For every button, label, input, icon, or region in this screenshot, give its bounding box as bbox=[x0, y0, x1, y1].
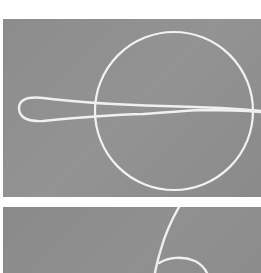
photo-panel-bottom bbox=[3, 207, 261, 273]
ring-and-loop-illustration bbox=[3, 19, 261, 197]
cord-loop-lower bbox=[19, 108, 261, 121]
hook-cord-illustration bbox=[3, 207, 261, 273]
cord-hook-curve bbox=[159, 258, 207, 273]
photo-panel-top bbox=[3, 19, 261, 197]
cord-loop-upper bbox=[19, 98, 261, 111]
